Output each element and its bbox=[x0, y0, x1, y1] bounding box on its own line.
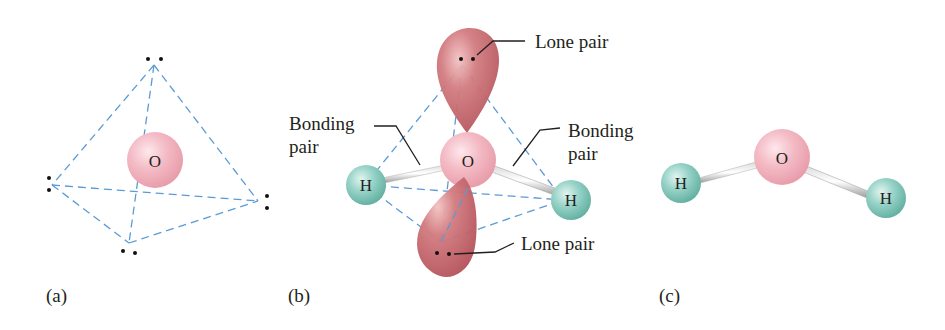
hydrogen-label-left-c: H bbox=[675, 174, 687, 193]
electron-pair-bottom bbox=[121, 249, 137, 255]
callout-lone-pair-top: Lone pair bbox=[535, 31, 609, 52]
panel-label-a: (a) bbox=[46, 285, 67, 307]
panel-a: O (a) bbox=[46, 57, 269, 307]
panel-label-c: (c) bbox=[659, 285, 680, 307]
leader-bonding-left bbox=[374, 126, 420, 165]
callout-bonding-left-line2: pair bbox=[289, 136, 319, 157]
bond-right-c bbox=[801, 165, 870, 198]
hydrogen-label-left-b: H bbox=[360, 176, 372, 195]
oxygen-label: O bbox=[149, 152, 161, 171]
electron-pair-left bbox=[47, 176, 51, 192]
bond-left-c bbox=[699, 162, 757, 183]
electron-pair-top bbox=[146, 57, 163, 61]
callout-lone-pair-bottom: Lone pair bbox=[521, 233, 595, 254]
panel-b: O H H Lone pair Lone pair Bonding pair B… bbox=[288, 28, 634, 307]
electron-pair-right bbox=[265, 194, 269, 210]
hydrogen-label-right-c: H bbox=[880, 189, 892, 208]
panel-c: O H H (c) bbox=[659, 129, 906, 307]
leader-bonding-right bbox=[513, 128, 560, 166]
oxygen-label-b: O bbox=[462, 152, 474, 171]
water-molecule-figure: O (a) bbox=[0, 0, 945, 330]
bond-right bbox=[489, 165, 560, 196]
callout-bonding-right-line1: Bonding bbox=[568, 120, 634, 141]
callout-bonding-left-line1: Bonding bbox=[289, 113, 355, 134]
bond-left bbox=[382, 164, 451, 183]
callout-bonding-right-line2: pair bbox=[568, 143, 598, 164]
hydrogen-label-right-b: H bbox=[565, 191, 577, 210]
oxygen-label-c: O bbox=[776, 149, 788, 168]
lone-pair-lobe-bottom bbox=[417, 177, 477, 277]
panel-label-b: (b) bbox=[288, 285, 310, 307]
